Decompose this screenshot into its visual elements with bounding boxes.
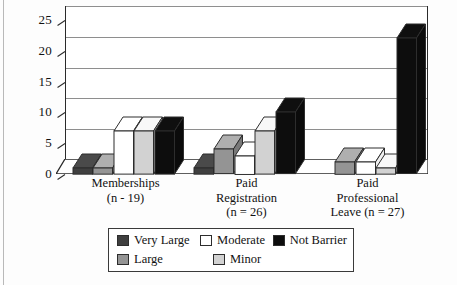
figure-left-rule [3, 0, 4, 285]
x-category-label: PaidProfessionalLeave (n = 27) [306, 176, 430, 220]
bar-not-barrier[interactable] [276, 112, 296, 174]
x-category-label-line: Paid [306, 176, 430, 191]
bar-minor[interactable] [376, 168, 396, 174]
legend-item-not-barrier[interactable]: Not Barrier [273, 233, 347, 248]
bar-moderate[interactable] [235, 156, 255, 174]
bar-large[interactable] [93, 168, 113, 174]
bar-minor[interactable] [255, 131, 275, 174]
y-tick-label: 15 [26, 74, 52, 90]
bar-moderate[interactable] [114, 131, 134, 174]
legend-swatch-very-large [117, 235, 129, 246]
y-tick-label: 25 [26, 12, 52, 28]
bar-very-large[interactable] [194, 168, 214, 174]
legend-swatch-large [117, 254, 129, 265]
bar-moderate[interactable] [356, 162, 376, 174]
bar-not-barrier[interactable] [397, 38, 417, 174]
legend-row: Very Large Moderate Not Barrier [117, 233, 347, 252]
chart-3d-box [56, 6, 428, 174]
y-tick-label: 10 [26, 104, 52, 120]
bar-3d-shape [155, 117, 184, 174]
x-category-label-line: Memberships [64, 176, 188, 191]
legend-label-not-barrier: Not Barrier [290, 233, 347, 248]
bar-minor[interactable] [134, 131, 154, 174]
legend-swatch-minor [213, 254, 225, 265]
gridline [66, 37, 427, 38]
chart-figure: 0510152025 Memberships(n - 19)PaidRegist… [0, 0, 457, 285]
x-category-label-line: (n = 26) [185, 205, 309, 220]
legend-item-minor[interactable]: Minor [213, 252, 297, 267]
bar-3d-shape [397, 24, 426, 174]
x-category-label-line: Registration [185, 191, 309, 206]
legend-item-moderate[interactable]: Moderate [200, 233, 273, 248]
x-axis-category-labels: Memberships(n - 19)PaidRegistration(n = … [24, 176, 440, 232]
x-category-label: Memberships(n - 19) [64, 176, 188, 205]
x-category-label-line: Paid [185, 176, 309, 191]
bar-3d-shape [276, 98, 305, 174]
gridline [66, 6, 427, 7]
bar-very-large[interactable] [315, 174, 335, 175]
gridline [66, 68, 427, 69]
legend-item-very-large[interactable]: Very Large [117, 233, 200, 248]
legend-item-large[interactable]: Large [117, 252, 213, 267]
x-category-label-line: (n - 19) [64, 191, 188, 206]
legend-row: Large Minor [117, 252, 347, 271]
bar-large[interactable] [214, 149, 234, 174]
legend-label-moderate: Moderate [217, 233, 265, 248]
bar-large[interactable] [335, 162, 355, 174]
bar-very-large[interactable] [73, 168, 93, 174]
y-tick-label: 20 [26, 43, 52, 59]
legend-label-minor: Minor [230, 252, 261, 267]
gridline [66, 98, 427, 99]
x-category-label-line: Leave (n = 27) [306, 205, 430, 220]
y-tick-label: 5 [26, 135, 52, 151]
y-axis-tick-labels: 0510152025 [24, 6, 52, 174]
legend-swatch-moderate [200, 235, 212, 246]
chart-legend: Very Large Moderate Not Barrier Large Mi… [108, 228, 354, 272]
legend-swatch-not-barrier [273, 235, 285, 246]
x-category-label-line: Professional [306, 191, 430, 206]
bar-not-barrier[interactable] [155, 131, 175, 174]
legend-label-very-large: Very Large [134, 233, 190, 248]
legend-label-large: Large [134, 252, 163, 267]
plot-area: 0510152025 [24, 6, 440, 174]
x-category-label: PaidRegistration(n = 26) [185, 176, 309, 220]
